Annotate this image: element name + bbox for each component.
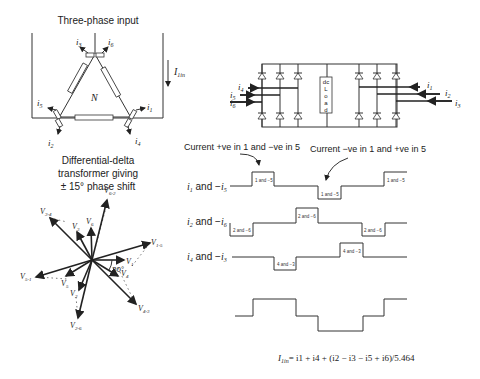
diode-icon: [355, 113, 363, 119]
vector-label-v4-3: V4-3: [138, 304, 150, 314]
svg-text:1 and −5: 1 and −5: [387, 178, 405, 183]
diode-icon: [355, 73, 363, 79]
current-label-i2: i2: [48, 138, 54, 149]
vector-label-v3: V3: [72, 222, 80, 232]
current-waveforms: Current +ve in 1 and −ve in 5 Current −v…: [184, 142, 426, 364]
transformer-title: Three-phase input: [57, 15, 138, 26]
bridge-input-i2: i2: [445, 88, 451, 99]
diode-icon: [276, 113, 284, 119]
input-current-label: I1in: [173, 66, 185, 78]
diode-icon: [392, 73, 400, 79]
vector-label-v4: V4: [121, 269, 129, 279]
svg-text:2 and −6: 2 and −6: [233, 228, 251, 233]
diode-icon: [294, 73, 302, 79]
waveform-label-i1-minus-i5: i1 and −i5: [187, 181, 227, 193]
svg-text:4 and −3: 4 and −3: [343, 249, 361, 254]
diode-icon: [294, 113, 302, 119]
caption-line-2: transformer giving: [58, 168, 138, 179]
twin-bridge-rectifier: i4 i5 i6 dc L o a d i1: [230, 64, 461, 127]
diode-icon: [258, 113, 266, 119]
caption-line-1: Differential-delta: [62, 155, 135, 166]
svg-text:1 and −5: 1 and −5: [321, 192, 339, 197]
waveform-trace-row3: [232, 243, 407, 270]
vector-label-v1-5: V1-5: [151, 238, 163, 248]
svg-text:2 and −6: 2 and −6: [298, 214, 316, 219]
current-label-i6: i6: [108, 37, 114, 48]
svg-text:4 and −3: 4 and −3: [277, 262, 295, 267]
vector-label-v3-4: V3-4: [40, 207, 52, 217]
current-label-i4: i4: [135, 136, 141, 147]
diode-icon: [258, 73, 266, 79]
diode-icon: [392, 113, 400, 119]
annotation-negative: Current −ve in 1 and +ve in 5: [310, 144, 426, 154]
delta-transformer: Three-phase input i3 i6 i5 i1 i2 i4 N I1: [32, 15, 185, 192]
annotation-positive: Current +ve in 1 and −ve in 5: [184, 142, 300, 152]
phasor-diagram: 30° V6-2 V3-4 V6 V3 V1-5 V1 V4 V5-1 V5 V…: [20, 186, 163, 331]
vector-label-v2-6: V2-6: [70, 321, 82, 331]
current-label-i1: i1: [147, 102, 153, 113]
diagram-canvas: Three-phase input i3 i6 i5 i1 i2 i4 N I1: [0, 0, 480, 379]
waveform-trace-total: [235, 299, 407, 331]
diode-icon: [373, 73, 381, 79]
formula: I1in= i1 + i4 + (i2 − i3 − i5 + i6)/5.46…: [277, 353, 415, 364]
vector-label-v2: V2: [70, 289, 78, 299]
waveform-trace-row1: [230, 172, 407, 199]
vector-label-v6: V6: [86, 217, 94, 227]
svg-text:dc: dc: [323, 79, 329, 85]
neutral-label: N: [90, 92, 99, 103]
diode-icon: [276, 73, 284, 79]
bridge-input-i1: i1: [427, 80, 433, 91]
right-bridge: i1 i2 i3: [355, 64, 461, 127]
vector-label-v5-1: V5-1: [20, 272, 32, 282]
vector-label-v5: V5: [61, 279, 69, 289]
waveform-label-i2-minus-i6: i2 and −i6: [187, 216, 227, 228]
bridge-input-i4: i4: [238, 82, 244, 93]
vector-label-v1: V1: [126, 257, 133, 267]
current-label-i3: i3: [76, 37, 82, 48]
diode-icon: [373, 113, 381, 119]
current-label-i5: i5: [37, 98, 43, 109]
svg-text:2 and −6: 2 and −6: [364, 228, 382, 233]
caption-line-3: ± 15° phase shift: [61, 181, 136, 192]
svg-text:d: d: [324, 107, 327, 113]
svg-text:1 and −5: 1 and −5: [255, 178, 273, 183]
bridge-input-i3: i3: [455, 98, 461, 109]
waveform-label-i4-minus-i3: i4 and −i3: [187, 251, 227, 263]
left-bridge: i4 i5 i6: [230, 64, 302, 127]
